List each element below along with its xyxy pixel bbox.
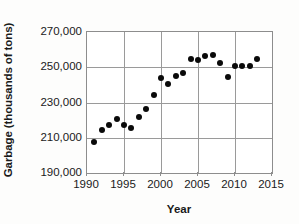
data-point (202, 53, 208, 59)
data-point (195, 57, 201, 63)
data-point (180, 70, 186, 76)
gridline-horizontal (87, 103, 272, 104)
x-tick-mark (123, 172, 124, 176)
plot-area (86, 31, 273, 174)
x-axis-title: Year (86, 203, 272, 215)
data-point (106, 122, 112, 128)
data-point (225, 74, 231, 80)
data-point (91, 139, 97, 145)
x-tick-mark (160, 172, 161, 176)
x-tick-mark (234, 172, 235, 176)
x-tick-mark (271, 172, 272, 176)
gridline-vertical (161, 32, 162, 173)
data-point (239, 63, 245, 69)
data-point (173, 73, 179, 79)
gridline-vertical (198, 32, 199, 173)
y-axis-title: Garbage (thousands of tons) (0, 0, 16, 200)
x-axis-tick-labels: 199019952000200520102015 (86, 178, 272, 194)
x-tick-mark (86, 172, 87, 176)
data-point (188, 56, 194, 62)
y-tick-label: 230,000 (22, 96, 82, 108)
data-point (247, 63, 253, 69)
data-point (121, 122, 127, 128)
data-point (136, 114, 142, 120)
gridline-horizontal (87, 138, 272, 139)
gridline-vertical (235, 32, 236, 173)
data-point (99, 127, 105, 133)
data-point (232, 63, 238, 69)
data-point (143, 106, 149, 112)
y-axis-tick-labels: 190,000210,000230,000250,000270,000 (18, 31, 82, 172)
gridline-vertical (124, 32, 125, 173)
data-point (254, 56, 260, 62)
x-tick-mark (197, 172, 198, 176)
y-tick-label: 250,000 (22, 60, 82, 72)
data-point (114, 116, 120, 122)
data-point (210, 52, 216, 58)
data-point (217, 60, 223, 66)
data-point (151, 92, 157, 98)
data-point (158, 75, 164, 81)
y-tick-label: 210,000 (22, 131, 82, 143)
data-point (128, 125, 134, 131)
y-tick-label: 270,000 (22, 25, 82, 37)
x-tick-label: 2015 (249, 178, 293, 190)
y-tick-label: 190,000 (22, 166, 82, 178)
data-point (165, 81, 171, 87)
chart-figure: Garbage (thousands of tons) 190,000210,0… (0, 0, 299, 224)
